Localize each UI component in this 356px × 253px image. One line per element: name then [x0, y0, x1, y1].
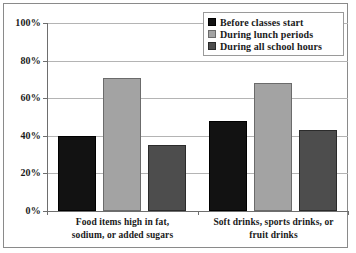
x-axis-tick	[198, 211, 199, 215]
bar	[209, 121, 247, 211]
x-axis-category-label-line: fruit drinks	[198, 229, 349, 242]
legend-item: During all school hours	[208, 40, 339, 52]
legend-item-label: During all school hours	[220, 41, 322, 52]
x-axis-category-label-line: Soft drinks, sports drinks, or	[198, 216, 349, 229]
x-axis-tick	[348, 211, 349, 215]
x-axis-category-label-line: Food items high in fat,	[47, 216, 198, 229]
y-axis-tick-label: 20%	[20, 168, 41, 178]
legend-item-label: During lunch periods	[220, 29, 313, 40]
x-axis-category-label-line: sodium, or added sugars	[47, 229, 198, 242]
bar	[148, 145, 186, 211]
y-axis-tick-label: 40%	[20, 131, 41, 141]
y-axis-tick-label: 0%	[26, 206, 41, 216]
legend-swatch-icon	[208, 42, 216, 50]
legend-item-label: Before classes start	[220, 17, 303, 28]
legend-swatch-icon	[208, 18, 216, 26]
bar	[299, 130, 337, 211]
bar	[254, 83, 292, 211]
y-axis-tick-label: 60%	[20, 93, 41, 103]
legend-item: During lunch periods	[208, 28, 339, 40]
bar-chart: 100%80%60%40%20%0% Food items high in fa…	[0, 0, 356, 253]
x-axis-category-label: Food items high in fat,sodium, or added …	[47, 216, 198, 242]
y-axis-tick-label: 100%	[15, 18, 41, 28]
legend-swatch-icon	[208, 30, 216, 38]
legend: Before classes start During lunch period…	[203, 12, 344, 56]
x-axis-category-label: Soft drinks, sports drinks, orfruit drin…	[198, 216, 349, 242]
bar	[103, 78, 141, 211]
y-axis-tick-label: 80%	[20, 56, 41, 66]
legend-item: Before classes start	[208, 16, 339, 28]
x-axis-tick	[47, 211, 48, 215]
bar	[58, 136, 96, 211]
